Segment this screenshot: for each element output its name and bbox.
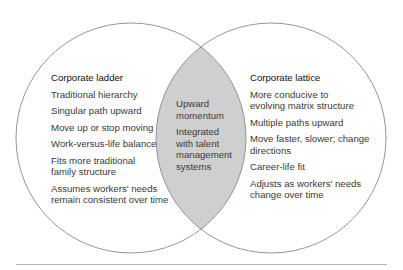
list-item: Multiple paths upward	[250, 117, 375, 129]
list-item: Integrated with talent management system…	[176, 126, 236, 172]
list-item: Singular path upward	[51, 105, 171, 117]
list-item: Work-versus-life balance	[51, 138, 171, 150]
list-item: More conducive to evolving matrix struct…	[250, 89, 360, 112]
corporate-lattice-list: Corporate lattice More conducive to evol…	[250, 72, 375, 206]
overlap-list: Upward momentum Integrated with talent m…	[176, 98, 236, 177]
list-item: Move faster, slower; change directions	[250, 133, 372, 156]
corporate-ladder-title: Corporate ladder	[51, 72, 171, 84]
corporate-ladder-list: Corporate ladder Traditional hierarchy S…	[51, 72, 171, 211]
bottom-divider	[16, 264, 387, 265]
corporate-lattice-title: Corporate lattice	[250, 72, 375, 84]
list-item: Fits more traditional family structure	[51, 155, 136, 178]
list-item: Career-life fit	[250, 161, 375, 173]
list-item: Upward momentum	[176, 98, 226, 121]
list-item: Assumes workers' needs remain consistent…	[51, 183, 169, 206]
list-item: Adjusts as workers' needs change over ti…	[250, 178, 365, 201]
list-item: Traditional hierarchy	[51, 89, 171, 101]
list-item: Move up or stop moving	[51, 122, 171, 134]
